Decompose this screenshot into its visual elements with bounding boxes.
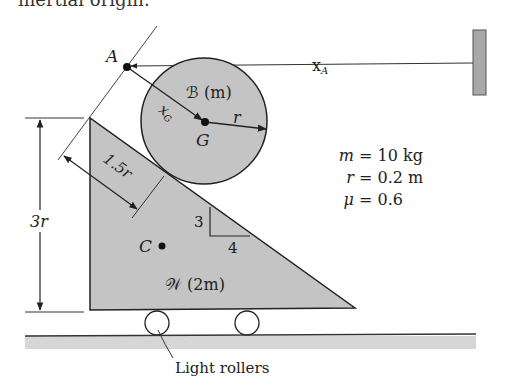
fixed-wall: [473, 30, 486, 95]
point-C: [159, 243, 166, 250]
label-A: A: [104, 46, 118, 66]
param-r: r = 0.2 m: [330, 167, 423, 189]
label-body-B: ℬ (m): [186, 83, 232, 102]
ground-shade: [25, 336, 476, 349]
param-m: m = 10 kg: [330, 145, 423, 167]
label-slope-run: 4: [228, 239, 238, 257]
label-C: C: [139, 236, 152, 256]
label-slope-rise: 3: [194, 213, 204, 231]
label-r: r: [233, 108, 242, 127]
label-wedge-W: 𝒲 (2m): [165, 275, 225, 294]
point-A: [123, 63, 131, 71]
param-mu: μ = 0.6: [330, 189, 423, 211]
roller-right: [235, 311, 259, 335]
point-G: [201, 118, 209, 126]
mechanics-diagram: A xA ℬ (m) xG r G 1.5r 3r 3 4 C 𝒲 (2m) L…: [0, 0, 510, 390]
roller-left: [145, 311, 169, 335]
label-light-rollers: Light rollers: [175, 359, 269, 377]
label-G: G: [196, 130, 210, 150]
label-3r: 3r: [30, 212, 49, 231]
parameters-list: m = 10 kg r = 0.2 m μ = 0.6: [330, 145, 423, 211]
label-xA: xA: [312, 56, 328, 76]
